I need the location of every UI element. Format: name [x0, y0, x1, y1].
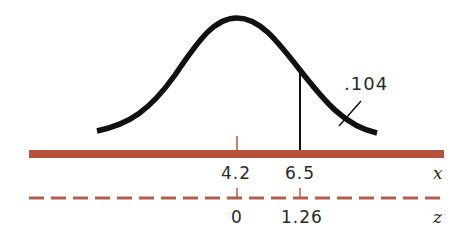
x-tick-label-mean: 4.2 [221, 163, 251, 183]
z-axis-name: z [433, 207, 442, 227]
x-axis-name: x [433, 163, 443, 183]
x-tick-label-cutoff: 6.5 [285, 163, 315, 183]
normal-curve-diagram: .104 4.2 6.5 x 0 1.26 z [0, 0, 468, 240]
z-tick-label-0: 0 [231, 207, 243, 227]
area-label: .104 [344, 73, 388, 94]
diagram-graphics [0, 0, 468, 240]
z-tick-label-1.26: 1.26 [281, 207, 323, 227]
normal-curve [97, 18, 377, 133]
x-axis-line [29, 150, 444, 158]
